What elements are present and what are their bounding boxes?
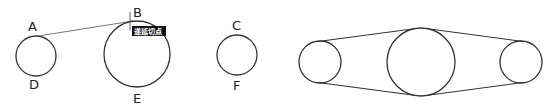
- belt-right-pulley: [500, 41, 542, 83]
- belt-bottom-right: [426, 83, 523, 96]
- belt-top-right: [426, 29, 523, 42]
- belt-left-pulley: [299, 41, 341, 83]
- label-f: F: [233, 78, 240, 93]
- belt-middle-pulley: [387, 28, 455, 96]
- snap-tooltip-text: 递延切点: [134, 27, 162, 36]
- label-c: C: [232, 18, 241, 33]
- label-a: A: [28, 19, 37, 34]
- tangent-line-ab: [38, 21, 133, 36]
- label-e: E: [133, 91, 141, 106]
- circle-ad: [16, 36, 56, 76]
- label-d: D: [29, 77, 39, 92]
- belt-diagram: [299, 28, 542, 96]
- label-b: B: [133, 5, 142, 20]
- circle-cf: [217, 35, 257, 75]
- tangent-diagram: 递延切点 A D B E C F: [0, 0, 553, 112]
